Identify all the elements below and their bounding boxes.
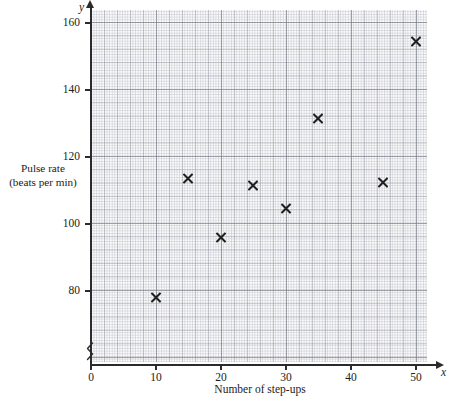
y-tick-label: 120: [40, 150, 80, 162]
y-tick-mark: [85, 22, 91, 23]
y-axis-line: [90, 6, 92, 366]
y-tick-mark: [85, 89, 91, 90]
x-tick-label: 10: [136, 371, 176, 383]
y-tick-label: 160: [40, 16, 80, 28]
data-point-marker: [377, 176, 390, 189]
data-point-marker: [182, 172, 195, 185]
x-tick-mark: [90, 364, 91, 370]
y-tick-label: 140: [40, 83, 80, 95]
y-tick-mark: [85, 223, 91, 224]
x-tick-label: 50: [396, 371, 436, 383]
x-tick-mark: [415, 364, 416, 370]
x-tick-mark: [350, 364, 351, 370]
scatter-chart: y x 80100120140160 01020304050 Pulse rat…: [0, 0, 459, 397]
x-tick-label: 20: [201, 371, 241, 383]
data-point-marker: [215, 231, 228, 244]
y-axis-title-line2: (beats per min): [0, 175, 86, 189]
x-tick-label: 40: [331, 371, 371, 383]
x-axis-letter: x: [441, 366, 446, 378]
data-point-marker: [410, 35, 423, 48]
data-point-marker: [247, 179, 260, 192]
y-axis-title-line1: Pulse rate: [0, 161, 86, 175]
x-tick-label: 0: [71, 371, 111, 383]
y-tick-mark: [85, 156, 91, 157]
x-axis-title: Number of step-ups: [150, 383, 370, 395]
x-tick-label: 30: [266, 371, 306, 383]
y-axis-title: Pulse rate (beats per min): [0, 161, 86, 189]
y-tick-mark: [85, 290, 91, 291]
x-tick-mark: [285, 364, 286, 370]
axis-break-zigzag-icon: [84, 341, 97, 363]
y-axis-arrow-icon: [86, 0, 94, 8]
data-point-marker: [150, 291, 163, 304]
x-tick-mark: [155, 364, 156, 370]
y-axis-letter: y: [79, 1, 84, 13]
data-point-marker: [312, 112, 325, 125]
y-tick-label: 80: [40, 284, 80, 296]
y-tick-label: 100: [40, 217, 80, 229]
x-tick-mark: [220, 364, 221, 370]
data-point-marker: [280, 202, 293, 215]
x-axis-line: [90, 364, 438, 366]
